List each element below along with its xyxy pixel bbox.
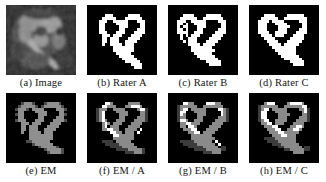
panel-em: (e) EM <box>5 93 77 179</box>
segmentation-figure: (a) Image <box>0 0 326 182</box>
panel-caption: (a) Image <box>20 75 62 91</box>
panel-image: (a) Image <box>5 5 77 91</box>
panel-em-over-c-canvas <box>249 93 319 163</box>
panel-caption: (d) Rater C <box>259 75 308 91</box>
panel-em-over-b: (g) EM / B <box>167 93 239 179</box>
panel-caption: (e) EM <box>25 163 56 179</box>
panel-em-over-c: (h) EM / C <box>248 93 320 179</box>
panel-rater-c: (d) Rater C <box>248 5 320 91</box>
panel-em-over-a: (f) EM / A <box>86 93 158 179</box>
panel-em-over-b-canvas <box>168 93 238 163</box>
figure-row-top: (a) Image <box>0 0 326 91</box>
panel-em-canvas <box>6 93 76 163</box>
panel-caption: (f) EM / A <box>99 163 145 179</box>
panel-rater-a-canvas <box>87 5 157 75</box>
panel-image-canvas <box>6 5 76 75</box>
panel-rater-b-canvas <box>168 5 238 75</box>
panel-rater-a: (b) Rater A <box>86 5 158 91</box>
panel-caption: (h) EM / C <box>260 163 308 179</box>
panel-rater-b: (c) Rater B <box>167 5 239 91</box>
panel-rater-c-canvas <box>249 5 319 75</box>
panel-caption: (g) EM / B <box>179 163 227 179</box>
figure-row-bottom: (e) EM <box>0 91 326 179</box>
panel-caption: (c) Rater B <box>179 75 228 91</box>
panel-em-over-a-canvas <box>87 93 157 163</box>
panel-caption: (b) Rater A <box>97 75 146 91</box>
